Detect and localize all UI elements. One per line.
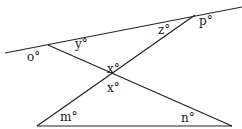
angle-label-y: y° [74, 37, 88, 51]
angle-label-p: p° [199, 14, 213, 28]
angle-label-x-bottom: x° [107, 81, 120, 95]
angle-label-z: z° [158, 23, 170, 37]
angle-label-n: n° [181, 111, 195, 125]
angle-diagram: o° y° z° p° x° x° m° n° [0, 0, 242, 129]
angle-label-x-top: x° [107, 62, 120, 76]
angle-label-o: o° [27, 50, 40, 64]
angle-label-m: m° [60, 110, 77, 124]
